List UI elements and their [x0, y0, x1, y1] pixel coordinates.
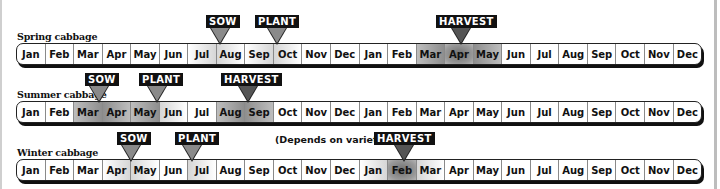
month-cell: Feb — [46, 160, 75, 180]
sow-pointer-icon — [211, 28, 229, 43]
month-cell: Dec — [331, 102, 360, 122]
month-cell: Aug — [217, 44, 246, 64]
month-cell: May — [474, 44, 503, 64]
month-cell: Mar — [417, 44, 446, 64]
month-cell: Aug — [217, 160, 246, 180]
sow-tag: SOW — [85, 73, 119, 86]
month-cell: Jun — [502, 102, 531, 122]
month-cell: Oct — [274, 102, 303, 122]
row-label-spring: Spring cabbage — [17, 31, 97, 42]
month-cell: May — [131, 160, 160, 180]
month-cell: May — [474, 102, 503, 122]
harvest-pointer-icon — [452, 28, 470, 43]
month-cell: Apr — [103, 160, 132, 180]
month-cell: Jun — [160, 44, 189, 64]
month-cell: Jul — [188, 160, 217, 180]
month-cell: Dec — [331, 44, 360, 64]
month-cell: Feb — [46, 44, 75, 64]
month-cell: Jan — [17, 160, 46, 180]
month-cell: Jan — [360, 160, 389, 180]
month-cell: Sep — [245, 102, 274, 122]
harvest-pointer-icon — [395, 145, 413, 160]
month-cell: Jan — [360, 44, 389, 64]
month-cell: Jul — [531, 102, 560, 122]
timeline-bar-winter: Jan Feb Mar Apr May Jun Jul Aug Sep Oct … — [16, 159, 702, 181]
month-cell: Jan — [17, 102, 46, 122]
month-cell: Mar — [417, 102, 446, 122]
month-cell: Aug — [559, 102, 588, 122]
variety-note: (Depends on variety) — [275, 134, 388, 145]
month-cell: Jan — [360, 102, 389, 122]
month-cell: Dec — [674, 44, 702, 64]
month-cell: Oct — [616, 160, 645, 180]
month-cell: Jun — [160, 160, 189, 180]
sow-pointer-icon — [122, 145, 140, 160]
month-cell: Jun — [502, 44, 531, 64]
month-cell: Jul — [188, 44, 217, 64]
month-cell: Nov — [645, 44, 674, 64]
month-cell: Apr — [445, 44, 474, 64]
month-cell: Mar — [74, 160, 103, 180]
month-cell: Sep — [245, 44, 274, 64]
plant-pointer-icon — [268, 28, 286, 43]
month-cell: Dec — [331, 160, 360, 180]
harvest-tag: HARVEST — [221, 73, 282, 86]
sow-tag: SOW — [117, 132, 151, 145]
month-cell: Sep — [588, 160, 617, 180]
month-cell: Sep — [588, 102, 617, 122]
month-cell: Feb — [388, 102, 417, 122]
month-cell: Dec — [674, 160, 702, 180]
month-cell: Sep — [588, 44, 617, 64]
month-cell: Jul — [531, 44, 560, 64]
plant-tag: PLANT — [139, 73, 183, 86]
harvest-tag: HARVEST — [436, 15, 497, 28]
month-cell: Jun — [160, 102, 189, 122]
month-cell: Dec — [674, 102, 702, 122]
left-border — [0, 0, 2, 189]
month-cell: Jul — [531, 160, 560, 180]
month-cell: Aug — [559, 44, 588, 64]
month-cell: Mar — [74, 102, 103, 122]
month-cell: Nov — [302, 102, 331, 122]
month-cell: Feb — [388, 44, 417, 64]
month-cell: Jan — [17, 44, 46, 64]
row-label-winter: Winter cabbage — [17, 147, 98, 158]
plant-tag: PLANT — [175, 132, 219, 145]
plant-pointer-icon — [148, 86, 166, 101]
month-cell: Oct — [274, 160, 303, 180]
plant-tag: PLANT — [255, 15, 299, 28]
month-cell: Feb — [388, 160, 417, 180]
month-cell: Oct — [274, 44, 303, 64]
month-cell: Jun — [502, 160, 531, 180]
month-cell: Nov — [645, 102, 674, 122]
plant-pointer-icon — [183, 145, 201, 160]
right-border — [714, 0, 717, 189]
month-cell: Apr — [103, 102, 132, 122]
month-cell: Feb — [46, 102, 75, 122]
month-cell: Mar — [74, 44, 103, 64]
harvest-tag: HARVEST — [374, 132, 435, 145]
month-cell: Sep — [245, 160, 274, 180]
month-cell: May — [474, 160, 503, 180]
month-cell: Apr — [103, 44, 132, 64]
month-cell: Nov — [302, 160, 331, 180]
timeline-bar-summer: Jan Feb Mar Apr May Jun Jul Aug Sep Oct … — [16, 101, 702, 123]
month-cell: Oct — [616, 102, 645, 122]
month-cell: Nov — [302, 44, 331, 64]
month-cell: Oct — [616, 44, 645, 64]
month-cell: Nov — [645, 160, 674, 180]
month-cell: Apr — [445, 160, 474, 180]
harvest-pointer-icon — [239, 86, 257, 101]
month-cell: Jul — [188, 102, 217, 122]
timeline-bar-spring: Jan Feb Mar Apr May Jun Jul Aug Sep Oct … — [16, 43, 702, 65]
month-cell: May — [131, 44, 160, 64]
month-cell: May — [131, 102, 160, 122]
month-cell: Mar — [417, 160, 446, 180]
sow-tag: SOW — [206, 15, 240, 28]
month-cell: Aug — [217, 102, 246, 122]
month-cell: Apr — [445, 102, 474, 122]
month-cell: Aug — [559, 160, 588, 180]
sow-pointer-icon — [90, 86, 108, 101]
